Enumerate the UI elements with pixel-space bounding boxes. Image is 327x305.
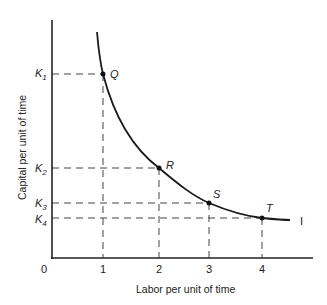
curve-label: I — [300, 215, 303, 227]
svg-text:K4: K4 — [35, 213, 47, 228]
svg-text:4: 4 — [259, 263, 265, 275]
axes — [51, 20, 313, 259]
label-t: T — [266, 202, 274, 214]
svg-text:K1: K1 — [35, 67, 47, 82]
point-s — [207, 201, 212, 206]
svg-text:K3: K3 — [35, 197, 47, 212]
svg-text:K2: K2 — [35, 162, 47, 177]
y-tick-labels: K1 K2 K3 K4 — [35, 67, 47, 228]
y-axis-title: Capital per unit of time — [16, 95, 28, 200]
x-axis-title: Labor per unit of time — [136, 283, 235, 295]
isoquant-diagram: Q R S T I K1 K2 K3 K4 0 1 2 3 4 Labor pe… — [0, 0, 327, 305]
data-points — [101, 72, 265, 221]
point-q — [101, 72, 106, 77]
svg-text:0: 0 — [41, 263, 47, 275]
x-tick-labels: 0 1 2 3 4 — [41, 263, 265, 275]
label-s: S — [213, 188, 221, 200]
label-q: Q — [110, 68, 119, 80]
point-r — [157, 166, 162, 171]
svg-text:3: 3 — [206, 263, 212, 275]
isoquant-curve — [97, 32, 290, 220]
label-r: R — [166, 159, 174, 171]
point-t — [260, 216, 265, 221]
svg-text:2: 2 — [156, 263, 162, 275]
svg-text:1: 1 — [100, 263, 106, 275]
